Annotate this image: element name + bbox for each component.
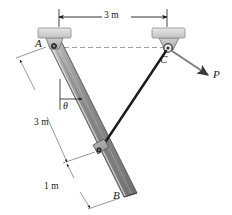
label-dimension-rod-upper: 3 m — [34, 118, 49, 128]
label-dimension-rod-lower: 1 m — [44, 182, 59, 192]
support-c — [152, 28, 185, 52]
force-p-arrow — [172, 51, 208, 75]
force-p — [172, 51, 208, 75]
rod-ab — [49, 41, 137, 197]
pin-link-rod-center — [98, 149, 99, 150]
rod-body — [49, 41, 137, 197]
support-a-block — [38, 28, 71, 38]
rod-seam-left — [53, 44, 128, 196]
dim-ext-line-mid — [63, 152, 95, 163]
pin-a-center — [53, 45, 55, 47]
link-bar-body — [100, 51, 166, 150]
label-force-p: P — [213, 69, 220, 80]
pin-c — [167, 47, 170, 50]
label-angle-theta: θ — [63, 101, 68, 111]
dim-line-lower-top — [67, 164, 74, 178]
label-dimension-span-ac: 3 m — [104, 11, 119, 21]
dim-line-lower-bottom — [80, 192, 90, 208]
dim-line-upper-top — [20, 60, 35, 90]
rod-edge-highlight — [50, 45, 125, 197]
mechanics-figure — [0, 0, 232, 215]
label-point-a: A — [35, 38, 42, 49]
dim-line-upper-bottom — [47, 117, 67, 162]
support-c-block — [152, 28, 185, 38]
label-point-b: B — [113, 190, 120, 201]
label-point-c: C — [160, 54, 167, 65]
support-a — [38, 28, 71, 49]
